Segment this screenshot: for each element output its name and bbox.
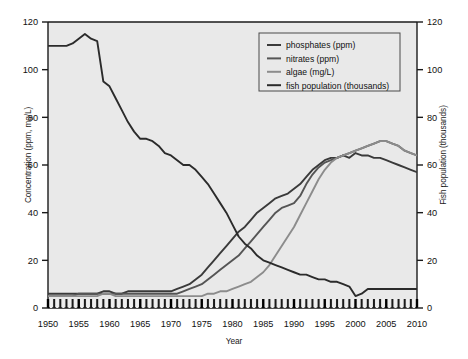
y-axis-right-tick-label: 100 bbox=[427, 65, 442, 75]
chart-container: 1950195519601965197019751980198519901995… bbox=[0, 0, 468, 359]
x-axis-tick-label: 1955 bbox=[69, 319, 89, 329]
y-axis-right-tick-label: 120 bbox=[427, 17, 442, 27]
y-axis-left-tick-label: 100 bbox=[23, 65, 38, 75]
x-axis-tick-label: 1995 bbox=[315, 319, 335, 329]
y-axis-right-tick-label: 80 bbox=[427, 113, 437, 123]
y-axis-left-tick-label: 20 bbox=[28, 256, 38, 266]
y-axis-right-title: Fish population (thousands) bbox=[438, 80, 448, 230]
legend-label: algae (mg/L) bbox=[286, 67, 334, 77]
x-axis-tick-label: 1985 bbox=[253, 319, 273, 329]
x-axis-tick-label: 1965 bbox=[130, 319, 150, 329]
y-axis-right-tick-label: 60 bbox=[427, 160, 437, 170]
x-axis-tick-label: 2000 bbox=[345, 319, 365, 329]
x-axis-tick-label: 1950 bbox=[38, 319, 58, 329]
x-axis-tick-label: 2010 bbox=[407, 319, 427, 329]
y-axis-right-tick-label: 40 bbox=[427, 208, 437, 218]
x-axis-tick-label: 1970 bbox=[161, 319, 181, 329]
y-axis-left-title: Concentration (ppm, mg/L) bbox=[23, 80, 33, 230]
y-axis-left-tick-label: 0 bbox=[33, 303, 38, 313]
legend-label: nitrates (ppm) bbox=[286, 54, 339, 64]
x-axis-title: Year bbox=[0, 336, 468, 346]
x-axis-tick-label: 1975 bbox=[192, 319, 212, 329]
legend-label: fish population (thousands) bbox=[286, 81, 389, 91]
x-axis-tick-label: 1990 bbox=[284, 319, 304, 329]
y-axis-right-tick-label: 0 bbox=[427, 303, 432, 313]
x-axis-tick-label: 2005 bbox=[376, 319, 396, 329]
water-quality-line-chart: 1950195519601965197019751980198519901995… bbox=[0, 0, 468, 359]
y-axis-right-tick-label: 20 bbox=[427, 256, 437, 266]
x-axis-tick-label: 1960 bbox=[99, 319, 119, 329]
y-axis-left-tick-label: 120 bbox=[23, 17, 38, 27]
x-axis-tick-label: 1980 bbox=[222, 319, 242, 329]
legend-label: phosphates (ppm) bbox=[286, 40, 355, 50]
